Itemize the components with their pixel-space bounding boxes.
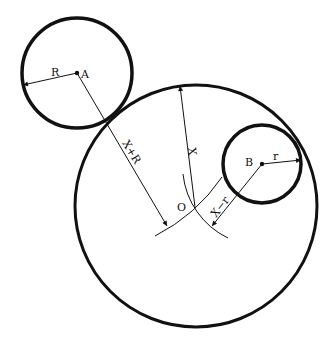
center-point-a — [75, 71, 79, 75]
label-x-minus-r: X−r — [208, 194, 232, 220]
center-point-b — [260, 162, 264, 166]
label-r-small: r — [273, 150, 279, 163]
label-b: B — [245, 156, 253, 169]
label-r-big: R — [51, 66, 60, 79]
label-x: X — [185, 147, 199, 157]
circle-o — [75, 85, 317, 327]
radius-r-big-arrow — [23, 73, 77, 85]
tangent-circles-diagram: A R B r O X X+R X−r — [0, 0, 332, 347]
label-a: A — [80, 68, 90, 81]
label-o: O — [177, 201, 186, 214]
radius-r-small-arrow — [262, 160, 301, 164]
